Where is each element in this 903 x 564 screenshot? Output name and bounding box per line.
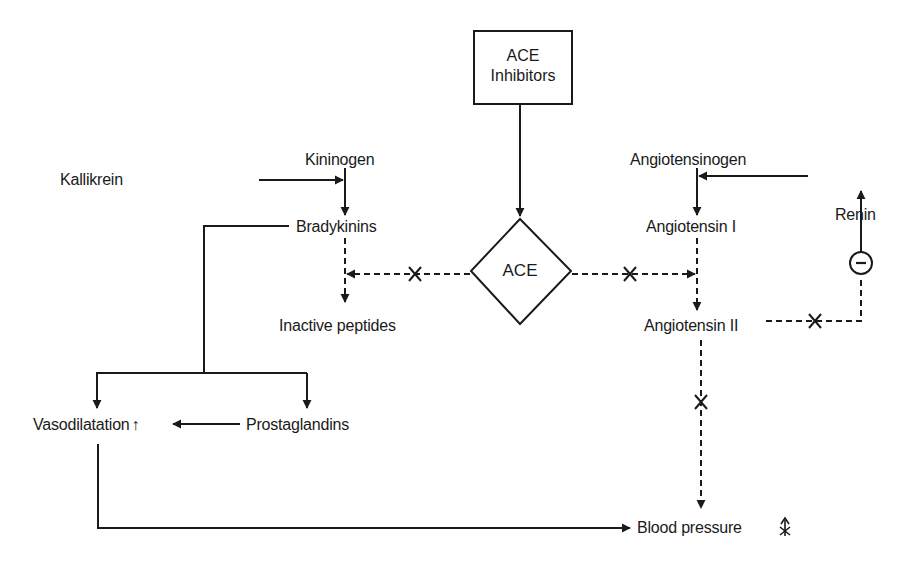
node-bradykinins: Bradykinins: [296, 218, 377, 236]
increase-arrow-icon: ↑: [132, 416, 140, 433]
node-inactive-peptides: Inactive peptides: [279, 317, 396, 335]
vasodilatation-text: Vasodilatation: [33, 416, 130, 433]
node-prostaglandins: Prostaglandins: [246, 416, 349, 434]
vasodilatation-bp-arrow: [98, 444, 630, 528]
ace-inhibitors-line1: ACE: [474, 46, 572, 66]
ace-enzyme-label: ACE: [490, 261, 550, 281]
blocked-increase-icon: [780, 518, 790, 536]
node-renin: Renin: [835, 206, 876, 224]
node-vasodilatation: Vasodilatation↑: [33, 416, 139, 434]
ace-inhibitors-label: ACE Inhibitors: [474, 46, 572, 86]
block-cross-bp: [695, 395, 707, 409]
diagram-canvas: [0, 0, 903, 564]
ace-inhibitors-line2: Inhibitors: [474, 66, 572, 86]
node-angiotensin-2: Angiotensin II: [644, 317, 738, 335]
node-angiotensinogen: Angiotensinogen: [630, 151, 746, 169]
node-kininogen: Kininogen: [305, 151, 374, 169]
bradykinin-branch-line: [204, 226, 289, 373]
node-blood-pressure: Blood pressure: [637, 519, 742, 537]
node-angiotensin-1: Angiotensin I: [646, 218, 736, 236]
feedback-dashed-line: [766, 280, 861, 321]
node-kallikrein: Kallikrein: [60, 171, 123, 189]
